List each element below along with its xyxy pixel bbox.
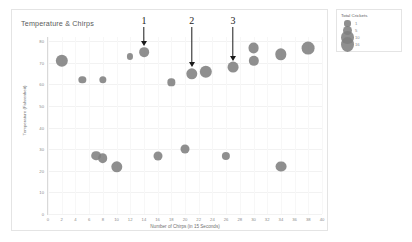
data-point bbox=[139, 47, 149, 57]
x-tick-label: 14 bbox=[142, 217, 147, 222]
gridline-vertical bbox=[75, 37, 76, 214]
x-tick-label: 38 bbox=[306, 217, 311, 222]
y-tick-label: 80 bbox=[39, 39, 44, 44]
legend-label: 16 bbox=[355, 42, 360, 47]
annotation-arrow-head bbox=[230, 56, 236, 61]
size-legend: Total Crickets 151016 bbox=[336, 9, 402, 52]
annotation-arrow-head bbox=[141, 41, 147, 46]
plot-area: 123 bbox=[48, 37, 322, 214]
x-tick-label: 18 bbox=[169, 217, 174, 222]
legend-item: 16 bbox=[341, 41, 397, 48]
legend-label: 10 bbox=[355, 35, 360, 40]
annotation-arrow-shaft bbox=[143, 27, 144, 42]
annotation-arrow-shaft bbox=[191, 27, 192, 63]
gridline-vertical bbox=[89, 37, 90, 214]
x-tick-label: 28 bbox=[237, 217, 242, 222]
data-point bbox=[186, 68, 197, 79]
data-point bbox=[248, 42, 259, 53]
legend-title: Total Crickets bbox=[341, 13, 397, 18]
legend-bubble-icon bbox=[341, 37, 354, 52]
chart-container: Temperature & Chirps Temperature (Fahren… bbox=[11, 9, 328, 231]
gridline-vertical bbox=[117, 37, 118, 214]
data-point bbox=[98, 153, 108, 163]
annotation-arrow-shaft bbox=[232, 27, 233, 57]
data-point bbox=[222, 152, 230, 160]
data-point bbox=[56, 55, 68, 67]
data-point bbox=[275, 49, 286, 60]
chart-title: Temperature & Chirps bbox=[21, 19, 94, 28]
x-tick-label: 30 bbox=[251, 217, 256, 222]
x-tick-label: 36 bbox=[292, 217, 297, 222]
y-tick-label: 10 bbox=[39, 190, 44, 195]
x-axis-title: Number of Chirps (in 15 Seconds) bbox=[48, 224, 322, 229]
x-tick-label: 6 bbox=[88, 217, 90, 222]
gridline-vertical bbox=[199, 37, 200, 214]
annotation-label: 1 bbox=[141, 16, 146, 26]
y-tick-label: 0 bbox=[42, 212, 44, 217]
y-tick-label: 30 bbox=[39, 147, 44, 152]
y-tick-label: 20 bbox=[39, 168, 44, 173]
legend-rows: 151016 bbox=[341, 20, 397, 48]
annotation-label: 3 bbox=[230, 16, 235, 26]
annotation-label: 2 bbox=[189, 16, 194, 26]
y-axis-tick-labels: 80706050403020100 bbox=[26, 37, 44, 214]
legend-swatch-wrap bbox=[341, 37, 354, 52]
data-point bbox=[153, 151, 162, 160]
gridline-vertical bbox=[185, 37, 186, 214]
data-point bbox=[99, 77, 106, 84]
x-tick-label: 34 bbox=[279, 217, 284, 222]
gridline-vertical bbox=[212, 37, 213, 214]
data-point bbox=[181, 145, 190, 154]
gridline-vertical bbox=[171, 37, 172, 214]
x-tick-label: 10 bbox=[114, 217, 119, 222]
gridline-vertical bbox=[240, 37, 241, 214]
y-tick-label: 60 bbox=[39, 82, 44, 87]
annotation-arrow-head bbox=[189, 62, 195, 67]
x-tick-label: 40 bbox=[320, 217, 325, 222]
x-tick-label: 32 bbox=[265, 217, 270, 222]
legend-label: 1 bbox=[355, 21, 357, 26]
x-tick-label: 24 bbox=[210, 217, 215, 222]
gridline-horizontal bbox=[48, 214, 322, 215]
x-tick-label: 20 bbox=[183, 217, 188, 222]
data-point bbox=[302, 41, 315, 54]
data-point bbox=[275, 161, 286, 172]
data-point bbox=[199, 65, 211, 77]
gridline-vertical bbox=[267, 37, 268, 214]
gridline-vertical bbox=[130, 37, 131, 214]
x-tick-label: 26 bbox=[224, 217, 229, 222]
gridline-vertical bbox=[295, 37, 296, 214]
data-point bbox=[228, 62, 239, 73]
data-point bbox=[248, 56, 258, 66]
x-tick-label: 22 bbox=[196, 217, 201, 222]
data-point bbox=[79, 77, 86, 84]
gridline-vertical bbox=[226, 37, 227, 214]
x-tick-label: 12 bbox=[128, 217, 133, 222]
x-tick-label: 2 bbox=[61, 217, 63, 222]
y-tick-label: 50 bbox=[39, 104, 44, 109]
gridline-vertical bbox=[144, 37, 145, 214]
screenshot-root: Temperature & Chirps Temperature (Fahren… bbox=[0, 0, 412, 242]
gridline-vertical bbox=[48, 37, 49, 214]
y-tick-label: 40 bbox=[39, 125, 44, 130]
x-tick-label: 0 bbox=[47, 217, 49, 222]
x-tick-label: 4 bbox=[74, 217, 76, 222]
x-tick-label: 16 bbox=[155, 217, 160, 222]
gridline-vertical bbox=[322, 37, 323, 214]
gridline-vertical bbox=[281, 37, 282, 214]
x-tick-label: 8 bbox=[102, 217, 104, 222]
gridline-vertical bbox=[158, 37, 159, 214]
gridline-vertical bbox=[308, 37, 309, 214]
gridline-vertical bbox=[103, 37, 104, 214]
legend-label: 5 bbox=[355, 28, 357, 33]
data-point bbox=[127, 53, 133, 59]
y-tick-label: 70 bbox=[39, 60, 44, 65]
